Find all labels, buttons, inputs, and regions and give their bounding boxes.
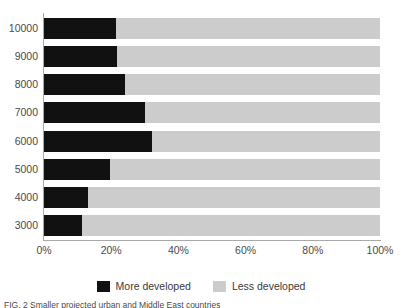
x-axis-tick-label: 60% <box>235 244 256 256</box>
y-axis-tick-label: 8000 <box>0 74 38 95</box>
y-axis-tick-label: 9000 <box>0 46 38 67</box>
bar-segment-more-developed <box>44 18 116 39</box>
bar-segment-more-developed <box>44 102 145 123</box>
bar-segment-less-developed <box>116 18 380 39</box>
stacked-bar-chart: 100009000800070006000500040003000 0%20%4… <box>0 0 402 308</box>
legend-label: Less developed <box>232 280 306 292</box>
bar-row <box>44 159 380 180</box>
bar-segment-more-developed <box>44 74 125 95</box>
legend-swatch-icon <box>213 281 226 292</box>
bar-row <box>44 74 380 95</box>
legend-item[interactable]: Less developed <box>213 280 306 292</box>
bar-segment-more-developed <box>44 131 152 152</box>
bar-row <box>44 131 380 152</box>
figure-caption: FIG. 2 Smaller projected urban and Middl… <box>4 300 220 308</box>
bar-segment-less-developed <box>82 215 380 236</box>
y-axis-tick-label: 3000 <box>0 215 38 236</box>
x-axis-tick-label: 40% <box>168 244 189 256</box>
y-axis-tick-label: 4000 <box>0 187 38 208</box>
bar-row <box>44 18 380 39</box>
bar-segment-more-developed <box>44 187 88 208</box>
bar-segment-less-developed <box>117 46 380 67</box>
y-axis-tick-label: 5000 <box>0 159 38 180</box>
bar-segment-less-developed <box>152 131 380 152</box>
bar-segment-less-developed <box>110 159 380 180</box>
bar-segment-more-developed <box>44 46 117 67</box>
bar-row <box>44 215 380 236</box>
x-axis-tick-label: 100% <box>367 244 394 256</box>
bar-segment-less-developed <box>145 102 380 123</box>
x-axis-line <box>43 240 381 241</box>
legend-item[interactable]: More developed <box>97 280 191 292</box>
plot-area <box>44 14 380 240</box>
bar-row <box>44 187 380 208</box>
bar-segment-more-developed <box>44 159 110 180</box>
bar-segment-less-developed <box>125 74 380 95</box>
y-axis-tick-label: 7000 <box>0 102 38 123</box>
bar-segment-more-developed <box>44 215 82 236</box>
bar-row <box>44 102 380 123</box>
y-axis-tick-label: 6000 <box>0 131 38 152</box>
legend-label: More developed <box>116 280 191 292</box>
bar-segment-less-developed <box>88 187 380 208</box>
legend-swatch-icon <box>97 281 110 292</box>
x-axis-tick-label: 20% <box>101 244 122 256</box>
x-axis-tick-label: 0% <box>36 244 51 256</box>
x-axis-tick-label: 80% <box>302 244 323 256</box>
y-axis-tick-label: 10000 <box>0 18 38 39</box>
bar-row <box>44 46 380 67</box>
chart-legend: More developedLess developed <box>0 280 402 292</box>
